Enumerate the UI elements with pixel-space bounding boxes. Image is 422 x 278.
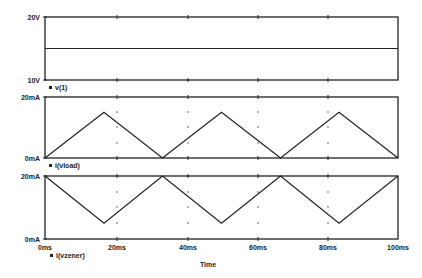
xtick-20: 20ms: [108, 244, 126, 251]
xtick-60: 60ms: [249, 244, 267, 251]
panel-ivzener-ticks: [43, 174, 328, 241]
p2-ytick-bottom: 0mA: [25, 155, 40, 162]
xtick-100: 100ms: [387, 244, 409, 251]
panel-v1: 20V 10V v(1): [28, 14, 398, 92]
p1-ytick-bottom: 10V: [28, 77, 41, 84]
panel-ivload-frame: [45, 97, 398, 158]
x-axis-title: Time: [200, 261, 216, 268]
legend-marker-icon: [50, 254, 53, 257]
legend-marker-icon: [49, 164, 52, 167]
xtick-80: 80ms: [319, 244, 337, 251]
legend-ivzener-label: i(vzener): [56, 252, 85, 260]
legend-v1: v(1): [49, 84, 67, 92]
trace-ivzener: [45, 176, 398, 223]
p2-ytick-top: 20mA: [21, 94, 40, 101]
panel-ivzener-frame: [45, 176, 398, 239]
xtick-0: 0ms: [38, 244, 52, 251]
legend-marker-icon: [49, 86, 52, 89]
panel-ivzener: 20mA 0mA: [21, 173, 398, 243]
panel-ivzener-grid: [116, 191, 328, 223]
chart: 20V 10V v(1) 20mA 0mA i(vload): [0, 0, 422, 278]
panel-ivload: 20mA 0mA i(vload): [21, 94, 398, 170]
trace-ivload: [45, 112, 398, 158]
xtick-40: 40ms: [179, 244, 197, 251]
p1-ytick-top: 20V: [28, 14, 41, 21]
legend-ivload: i(vload): [49, 162, 80, 170]
legend-ivzener: i(vzener): [50, 252, 85, 260]
x-axis: 0ms 20ms 40ms 60ms 80ms 100ms i(vzener) …: [38, 244, 409, 268]
legend-v1-label: v(1): [55, 84, 67, 92]
legend-ivload-label: i(vload): [55, 162, 80, 170]
panel-ivload-grid: [116, 111, 328, 143]
p3-ytick-bottom: 0mA: [25, 236, 40, 243]
panel-ivload-ticks: [43, 95, 328, 160]
p3-ytick-top: 20mA: [21, 173, 40, 180]
